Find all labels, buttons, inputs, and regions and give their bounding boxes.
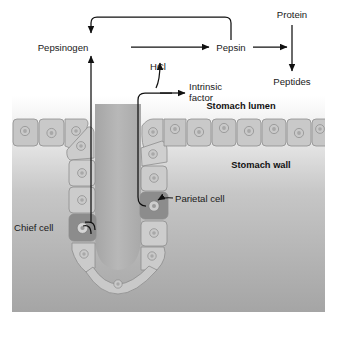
gland-lumen-channel (95, 104, 141, 270)
label-parietal-cell: Parietal cell (175, 193, 225, 204)
label-peptides: Peptides (273, 76, 311, 87)
label-stomach-lumen: Stomach lumen (206, 101, 276, 111)
label-pepsinogen: Pepsinogen (38, 42, 89, 53)
label-pepsin: Pepsin (216, 42, 245, 53)
label-stomach-wall: Stomach wall (231, 160, 290, 170)
label-chief-cell: Chief cell (14, 222, 53, 233)
gastric-gland-diagram: Pepsinogen HCl Pepsin Intrinsic factor P… (0, 0, 340, 352)
label-hcl: HCl (150, 61, 166, 72)
label-intrinsic-factor-line1: Intrinsic (189, 81, 222, 92)
label-protein: Protein (277, 9, 307, 20)
surface-epithelium-right (164, 119, 330, 146)
